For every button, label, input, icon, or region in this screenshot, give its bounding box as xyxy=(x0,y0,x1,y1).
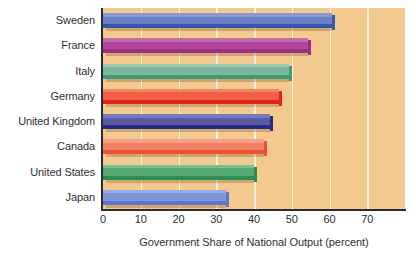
x-tick-label-60: 60 xyxy=(323,213,335,225)
bar-row xyxy=(103,185,405,210)
bar-highlight-edge xyxy=(103,114,270,118)
x-tick-label-0: 0 xyxy=(100,213,106,225)
bar-row xyxy=(103,59,405,84)
x-tick-label-20: 20 xyxy=(172,213,184,225)
bar-end-cap xyxy=(254,167,257,182)
y-axis-label-united-states: United States xyxy=(30,160,95,185)
y-axis-label-italy: Italy xyxy=(75,59,95,84)
y-axis-label-germany: Germany xyxy=(50,84,95,109)
y-axis-line xyxy=(101,8,103,211)
bar-end-cap xyxy=(270,116,273,131)
bar-france[interactable] xyxy=(103,38,308,53)
x-axis-title: Government Share of National Output (per… xyxy=(103,236,405,248)
bar-chart-figure: Sweden France Italy Germany United Kingd… xyxy=(0,0,416,258)
bar-highlight-edge xyxy=(103,38,308,42)
y-axis-label-france: France xyxy=(61,33,95,58)
plot-area xyxy=(103,8,405,210)
bar-row xyxy=(103,160,405,185)
bar-end-cap xyxy=(332,15,335,30)
bar-drop-shadow xyxy=(106,180,254,183)
bars-layer xyxy=(103,8,405,210)
x-axis-tick-labels: 010203040506070 xyxy=(0,213,416,229)
bar-italy[interactable] xyxy=(103,64,289,79)
bar-end-cap xyxy=(264,141,267,156)
bar-highlight-edge xyxy=(103,89,279,93)
y-axis-label-sweden: Sweden xyxy=(56,8,95,33)
bar-japan[interactable] xyxy=(103,190,226,205)
bar-row xyxy=(103,109,405,134)
y-axis-label-canada: Canada xyxy=(57,134,95,159)
bar-end-cap xyxy=(308,40,311,55)
bar-sweden[interactable] xyxy=(103,13,332,28)
bar-drop-shadow xyxy=(106,205,226,208)
bar-highlight-edge xyxy=(103,13,332,17)
y-axis-label-united-kingdom: United Kingdom xyxy=(18,109,95,134)
bar-highlight-edge xyxy=(103,139,264,143)
x-tick-label-50: 50 xyxy=(286,213,298,225)
y-axis-category-labels: Sweden France Italy Germany United Kingd… xyxy=(0,8,99,210)
x-tick-label-30: 30 xyxy=(210,213,222,225)
bar-united-states[interactable] xyxy=(103,165,254,180)
bar-united-kingdom[interactable] xyxy=(103,114,270,129)
x-tick-label-70: 70 xyxy=(361,213,373,225)
y-axis-label-japan: Japan xyxy=(66,185,95,210)
bar-drop-shadow xyxy=(106,104,279,107)
bar-end-cap xyxy=(226,192,229,207)
bar-end-cap xyxy=(279,91,282,106)
bar-row xyxy=(103,84,405,109)
bar-row xyxy=(103,8,405,33)
bar-drop-shadow xyxy=(106,53,308,56)
bar-row xyxy=(103,134,405,159)
bar-highlight-edge xyxy=(103,190,226,194)
x-tick-label-40: 40 xyxy=(248,213,260,225)
bar-row xyxy=(103,33,405,58)
bar-drop-shadow xyxy=(106,28,332,31)
bar-drop-shadow xyxy=(106,154,264,157)
bar-drop-shadow xyxy=(106,79,289,82)
bar-end-cap xyxy=(289,66,292,81)
bar-canada[interactable] xyxy=(103,139,264,154)
x-tick-label-10: 10 xyxy=(135,213,147,225)
bar-germany[interactable] xyxy=(103,89,279,104)
bar-highlight-edge xyxy=(103,165,254,169)
bar-highlight-edge xyxy=(103,64,289,68)
x-axis-line xyxy=(101,209,406,211)
bar-drop-shadow xyxy=(106,129,270,132)
